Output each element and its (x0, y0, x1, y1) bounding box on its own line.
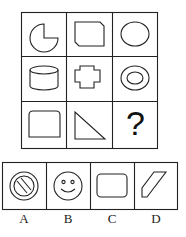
option-label-c[interactable]: C (102, 211, 122, 227)
question-mark: ? (113, 104, 158, 143)
no-sign-icon (10, 172, 38, 200)
puzzle-drawing (0, 0, 186, 237)
parallelogram-icon (142, 172, 166, 197)
chamfered-rectangle-icon (75, 22, 104, 46)
option-label-a[interactable]: A (14, 211, 34, 227)
right-triangle-icon (75, 112, 105, 139)
rounded-rectangle-icon (29, 111, 60, 137)
double-ellipse-icon (121, 66, 149, 90)
option-label-d[interactable]: D (146, 211, 166, 227)
puzzle-figure: ? A B C D (0, 0, 186, 237)
cylinder-icon (30, 66, 58, 90)
ellipse-icon (121, 22, 149, 46)
circle-quarter-cut-icon (30, 24, 58, 52)
rounded-rectangle-option-icon (97, 174, 127, 197)
cross-polygon-icon (75, 66, 100, 88)
smiley-face-icon (54, 172, 82, 200)
option-label-b[interactable]: B (58, 211, 78, 227)
